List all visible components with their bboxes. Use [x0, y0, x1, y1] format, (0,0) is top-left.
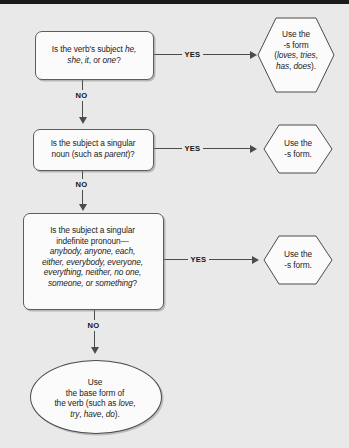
decision-node-2: [33, 129, 154, 171]
edge-label-yes-2: YES: [182, 143, 203, 154]
edge-yes-3-line: [162, 259, 257, 260]
hexagon-shape-2: [263, 124, 333, 174]
flowchart-canvas: Is the verb's subject he, she, it, or on…: [0, 0, 349, 448]
edge-yes-3-arrowhead: [252, 256, 259, 264]
terminal-node-4: [30, 360, 162, 434]
edge-label-yes-1: YES: [182, 49, 203, 60]
terminal-node-1: [257, 17, 335, 93]
decision-node-1: [35, 31, 154, 80]
terminal-node-3: [263, 235, 333, 285]
terminal-node-2: [263, 124, 333, 174]
top-edge-bar: [0, 0, 349, 4]
edge-label-no-1: NO: [73, 90, 90, 101]
edge-yes-2-arrowhead: [250, 145, 257, 153]
hexagon-shape-1: [257, 17, 335, 93]
edge-label-yes-3: YES: [188, 254, 209, 265]
decision-node-3: [23, 213, 164, 310]
edge-label-no-3: NO: [85, 320, 102, 331]
edge-no-3-arrowhead: [91, 347, 99, 354]
edge-label-no-2: NO: [73, 179, 90, 190]
edge-no-2-arrowhead: [79, 204, 87, 211]
edge-yes-1-arrowhead: [250, 51, 257, 59]
edge-yes-1-line: [152, 54, 255, 55]
edge-yes-2-line: [152, 148, 255, 149]
hexagon-shape-3: [263, 235, 333, 285]
edge-no-1-arrowhead: [79, 117, 87, 124]
